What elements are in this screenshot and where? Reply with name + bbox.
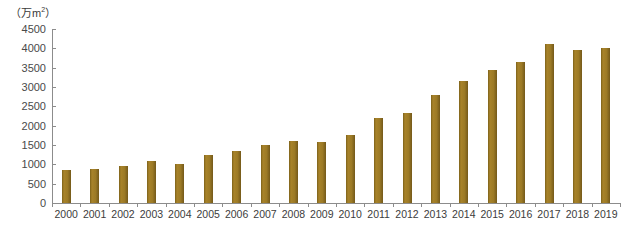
x-axis-tick-mark [535,203,536,207]
bar [232,151,241,203]
bar [573,50,582,203]
x-axis-tick-mark [563,203,564,207]
x-axis-tick-label: 2009 [310,208,333,220]
x-axis-tick-mark [308,203,309,207]
y-axis-tick-label: 2500 [22,100,46,112]
bar [346,135,355,203]
y-axis-tick-label: 1000 [22,158,46,170]
bar [459,81,468,203]
bar [204,155,213,203]
x-axis-tick-mark [364,203,365,207]
y-axis-tick-label: 4000 [22,42,46,54]
bar [374,118,383,203]
bar [62,170,71,203]
x-axis-tick-label: 2008 [282,208,305,220]
y-axis-tick-label: 3500 [22,62,46,74]
x-axis-tick-label: 2018 [566,208,589,220]
x-axis-tick-label: 2019 [594,208,617,220]
x-axis-tick-mark [421,203,422,207]
bar [403,113,412,203]
x-axis-tick-mark [222,203,223,207]
x-axis-tick-mark [279,203,280,207]
bar [90,169,99,203]
bar [147,161,156,203]
y-axis-tick-label: 0 [40,197,46,209]
x-axis-tick-mark [450,203,451,207]
y-axis-tick-label: 500 [28,178,46,190]
x-axis-tick-label: 2011 [367,208,390,220]
x-axis-tick-label: 2002 [111,208,134,220]
bar [516,62,525,203]
x-axis-tick-mark [194,203,195,207]
x-axis-tick-label: 2006 [225,208,248,220]
x-axis-tick-label: 2014 [452,208,475,220]
x-axis-tick-mark [80,203,81,207]
unit-suffix: ） [45,7,56,19]
x-axis-tick-label: 2004 [168,208,191,220]
y-axis-tick-label: 1500 [22,139,46,151]
x-axis-tick-mark [620,203,621,207]
y-axis-tick-labels: 050010001500200025003000350040004500 [0,0,46,229]
x-axis-tick-mark [166,203,167,207]
bar [289,141,298,203]
x-axis-tick-mark [251,203,252,207]
bar [317,142,326,203]
y-axis-tick-label: 2000 [22,120,46,132]
x-axis-tick-label: 2013 [424,208,447,220]
bar-chart: （万m2） 0500100015002000250030003500400045… [0,0,626,229]
x-axis-tick-label: 2015 [481,208,504,220]
x-axis-tick-label: 2001 [83,208,106,220]
x-axis-tick-label: 2007 [253,208,276,220]
x-axis-tick-label: 2012 [395,208,418,220]
x-axis-tick-mark [478,203,479,207]
x-axis-tick-mark [336,203,337,207]
x-axis-tick-label: 2005 [197,208,220,220]
bar [431,95,440,203]
x-axis-tick-label: 2003 [140,208,163,220]
bar [488,70,497,203]
y-axis-tick-label: 4500 [22,23,46,35]
y-axis-tick-label: 3000 [22,81,46,93]
x-axis-tick-mark [109,203,110,207]
x-axis-tick-label: 2010 [339,208,362,220]
plot-area [52,29,620,203]
bar [175,164,184,203]
bar [545,44,554,203]
x-axis-tick-mark [592,203,593,207]
x-axis-tick-mark [393,203,394,207]
bar [261,145,270,203]
x-axis-tick-label: 2000 [55,208,78,220]
bar [601,48,610,203]
x-axis-tick-mark [52,203,53,207]
x-axis-tick-mark [506,203,507,207]
x-axis-tick-mark [137,203,138,207]
x-axis-tick-label: 2017 [537,208,560,220]
bar [119,166,128,203]
x-axis-tick-label: 2016 [509,208,532,220]
